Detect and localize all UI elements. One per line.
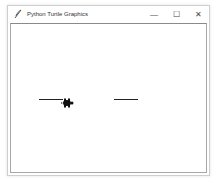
minimize-button[interactable]: —	[143, 6, 165, 22]
maximize-button[interactable]: ☐	[165, 6, 187, 22]
turtle-canvas[interactable]	[10, 23, 207, 173]
turtle-window: Python Turtle Graphics — ☐ ✕	[7, 5, 210, 176]
feather-icon	[13, 9, 23, 19]
close-button[interactable]: ✕	[187, 6, 209, 22]
drawn-line-right	[114, 99, 138, 100]
turtle-icon	[60, 94, 74, 112]
title-bar[interactable]: Python Turtle Graphics — ☐ ✕	[8, 6, 209, 22]
window-controls: — ☐ ✕	[143, 6, 209, 22]
window-title: Python Turtle Graphics	[27, 11, 88, 17]
